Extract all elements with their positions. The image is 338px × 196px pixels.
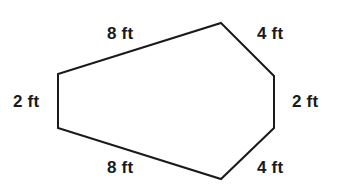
side-label-left: 2 ft (13, 93, 39, 110)
side-label-bottom-left: 8 ft (107, 159, 133, 176)
geometry-figure: 8 ft 4 ft 2 ft 2 ft 8 ft 4 ft (0, 0, 338, 196)
side-label-right: 2 ft (292, 93, 318, 110)
side-label-top-left: 8 ft (107, 25, 133, 42)
hexagon-shape-svg (0, 0, 338, 196)
figure-background (0, 0, 338, 196)
side-label-top-right: 4 ft (257, 25, 283, 42)
side-label-bottom-right: 4 ft (257, 159, 283, 176)
